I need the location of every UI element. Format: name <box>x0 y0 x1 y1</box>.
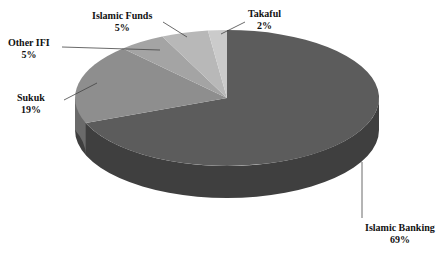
pie-3d-body <box>75 30 379 198</box>
pie-chart-graphic <box>0 0 448 254</box>
callout-takaful: Takaful 2% <box>248 8 281 31</box>
callout-islamic-banking: Islamic Banking 69% <box>365 222 435 245</box>
pie-chart: Islamic Funds 5% Takaful 2% Other IFI 5%… <box>0 0 448 254</box>
callout-islamic-banking-name: Islamic Banking <box>365 222 435 233</box>
callout-sukuk-name: Sukuk <box>17 92 45 103</box>
callout-islamic-banking-percent: 69% <box>365 234 435 246</box>
callout-takaful-percent: 2% <box>248 20 281 32</box>
callout-islamic-funds-name: Islamic Funds <box>92 10 152 21</box>
callout-islamic-funds-percent: 5% <box>92 22 152 34</box>
callout-islamic-funds: Islamic Funds 5% <box>92 10 152 33</box>
callout-sukuk: Sukuk 19% <box>17 92 45 115</box>
callout-sukuk-percent: 19% <box>17 104 45 116</box>
callout-other-ifi-name: Other IFI <box>8 37 50 48</box>
callout-other-ifi-percent: 5% <box>8 49 50 61</box>
callout-other-ifi: Other IFI 5% <box>8 37 50 60</box>
callout-takaful-name: Takaful <box>248 8 281 19</box>
